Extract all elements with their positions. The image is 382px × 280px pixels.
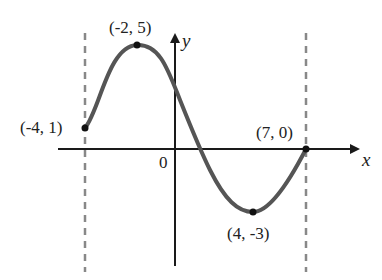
point-7-0	[303, 146, 310, 153]
y-axis-label: y	[182, 31, 190, 50]
label-point-neg4-1: (-4, 1)	[20, 119, 62, 136]
x-axis-label: x	[362, 150, 370, 169]
label-point-7-0: (7, 0)	[256, 124, 293, 141]
point-4-neg3	[250, 209, 257, 216]
origin-label: 0	[159, 154, 168, 171]
function-graph	[0, 0, 382, 280]
label-point-neg2-5: (-2, 5)	[109, 19, 151, 36]
point-neg2-5	[134, 42, 141, 49]
point-neg4-1	[82, 125, 89, 132]
label-point-4-neg3: (4, -3)	[227, 225, 269, 242]
